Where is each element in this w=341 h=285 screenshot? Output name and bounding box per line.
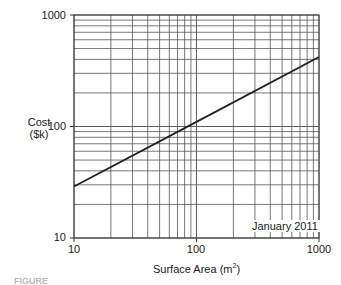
date-annotation: January 2011 <box>250 220 320 232</box>
x-axis-label-end: ) <box>236 263 240 275</box>
y-tick-10: 10 <box>26 231 66 243</box>
x-axis-label-text: Surface Area (m <box>153 263 232 275</box>
x-tick-100: 100 <box>176 243 216 255</box>
x-tick-1000: 1000 <box>299 243 339 255</box>
y-tick-1000: 1000 <box>26 9 66 21</box>
x-tick-10: 10 <box>54 243 94 255</box>
y-axis-label: Cost ($k) <box>24 116 54 140</box>
y-axis-label-line2: ($k) <box>24 128 54 140</box>
x-axis-label: Surface Area (m2) <box>153 262 240 275</box>
y-axis-label-line1: Cost <box>24 116 54 128</box>
figure-caption: FIGURE <box>14 276 48 285</box>
